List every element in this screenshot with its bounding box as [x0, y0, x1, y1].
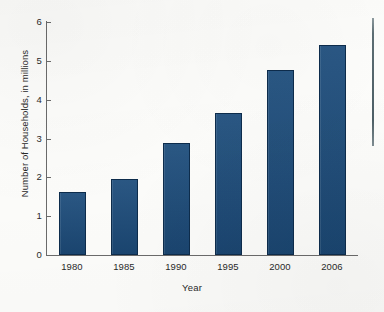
x-axis-tick-label: 1990: [150, 261, 202, 272]
y-axis-tick-label: 6: [30, 16, 42, 27]
bar: [111, 179, 138, 255]
y-axis-tick-label: 1: [30, 210, 42, 221]
x-axis-tick-label: 1985: [98, 261, 150, 272]
y-axis-tick-label: 2: [30, 171, 42, 182]
y-axis-tick: [46, 177, 51, 178]
y-axis-tick: [46, 61, 51, 62]
x-axis-title: Year: [0, 282, 384, 293]
y-axis-tick: [46, 100, 51, 101]
x-axis-tick-label: 2000: [254, 261, 306, 272]
bar: [267, 70, 294, 255]
bar: [319, 45, 346, 255]
y-axis-tick: [46, 139, 51, 140]
y-axis-tick-label: 0: [30, 249, 42, 260]
y-axis-tick: [46, 255, 51, 256]
x-axis-tick-label: 1980: [46, 261, 98, 272]
bar: [163, 143, 190, 255]
x-axis-tick-label: 2006: [306, 261, 358, 272]
y-axis-title: Number of Households, in millions: [19, 34, 30, 214]
y-axis-tick-label: 3: [30, 133, 42, 144]
bar: [215, 113, 242, 255]
x-axis-line: [46, 255, 358, 256]
bar-chart-figure: 0123456 198019851990199520002006 Number …: [0, 0, 384, 312]
y-axis-tick: [46, 22, 51, 23]
y-axis-tick-label: 5: [30, 55, 42, 66]
y-axis-tick: [46, 216, 51, 217]
y-axis-tick-label: 4: [30, 94, 42, 105]
x-axis-tick-label: 1995: [202, 261, 254, 272]
scan-artifact-line: [372, 18, 374, 146]
bar: [59, 192, 86, 255]
